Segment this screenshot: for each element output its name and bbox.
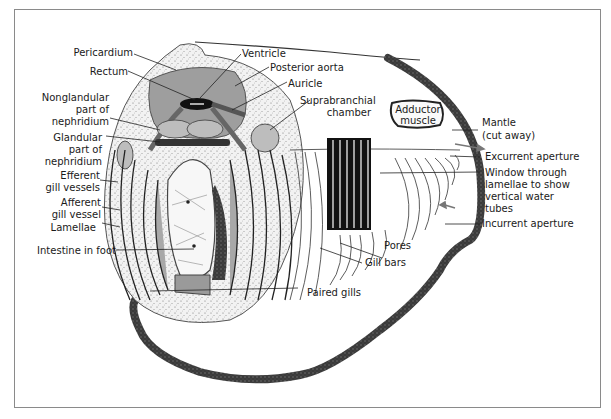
label-lamellae: Lamellae bbox=[30, 222, 96, 233]
label-window-2: lamellae to show bbox=[485, 179, 570, 190]
label-efferent-2: gill vessels bbox=[30, 182, 100, 193]
label-gill-bars: Gill bars bbox=[365, 257, 406, 268]
label-adductor-2: muscle bbox=[392, 115, 444, 126]
label-glandular-1: Glandular bbox=[30, 132, 102, 143]
label-suprabranchial-2: chamber bbox=[300, 107, 371, 118]
label-afferent-2: gill vessel bbox=[30, 209, 101, 220]
intestine-dot-2 bbox=[192, 244, 196, 248]
label-efferent-1: Efferent bbox=[30, 170, 100, 181]
label-auricle: Auricle bbox=[288, 78, 323, 89]
label-paired-gills: Paired gills bbox=[307, 287, 361, 298]
label-excurrent-aperture: Excurrent aperture bbox=[485, 151, 579, 162]
label-glandular-2: part of bbox=[30, 144, 102, 155]
label-window-3: vertical water bbox=[485, 191, 554, 202]
window-vertical-water-tubes bbox=[327, 138, 371, 230]
label-suprabranchial-1: Suprabranchial bbox=[300, 95, 371, 106]
label-glandular-3: nephridium bbox=[30, 156, 102, 167]
label-adductor-1: Adductor bbox=[392, 104, 444, 115]
label-nonglandular-2: part of bbox=[30, 104, 109, 115]
label-nonglandular-1: Nonglandular bbox=[30, 92, 109, 103]
label-mantle-1: Mantle bbox=[482, 117, 516, 128]
label-window-4: tubes bbox=[485, 203, 513, 214]
label-mantle-2: (cut away) bbox=[482, 130, 535, 141]
label-pericardium: Pericardium bbox=[70, 47, 133, 58]
label-ventricle: Ventricle bbox=[242, 48, 286, 59]
label-window-1: Window through bbox=[485, 167, 567, 178]
label-intestine-in-foot: Intestine in foot bbox=[20, 245, 116, 256]
label-rectum: Rectum bbox=[70, 66, 128, 77]
label-afferent-1: Afferent bbox=[30, 197, 101, 208]
label-nonglandular-3: nephridium bbox=[30, 116, 109, 127]
label-pores: Pores bbox=[384, 240, 411, 251]
label-posterior-aorta: Posterior aorta bbox=[270, 62, 344, 73]
label-incurrent-aperture: Incurrent aperture bbox=[482, 218, 574, 229]
intestine-dot-1 bbox=[186, 200, 190, 204]
foot bbox=[168, 160, 216, 295]
